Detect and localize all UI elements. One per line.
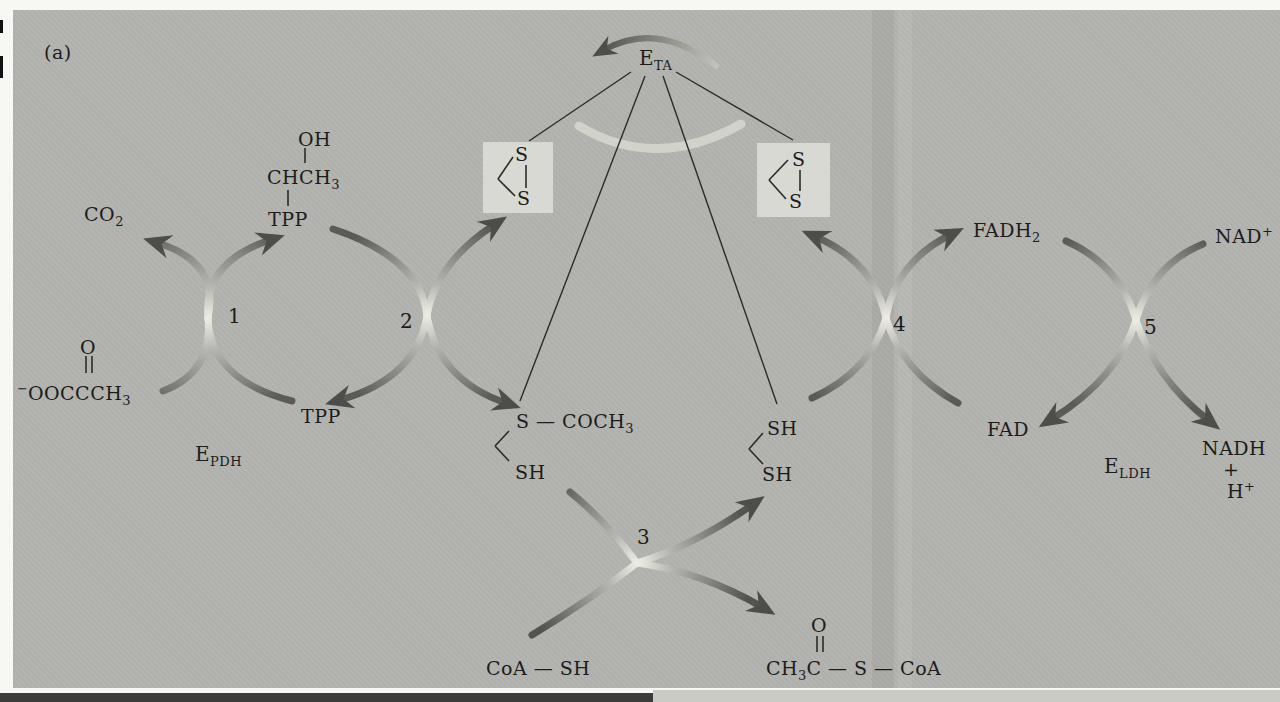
hydroxyethyl-oh-label: OH [298, 128, 331, 150]
epdh-base: E [195, 442, 210, 466]
ch-base: CHCH [267, 166, 331, 188]
acetylcoa-formula-label: CH3C — S — CoA [766, 657, 941, 687]
dihydro-arm [749, 449, 763, 464]
co2-base: CO [84, 203, 115, 225]
acetyl-s-group-label: S — COCH3 [516, 410, 634, 440]
dihydro-sh-top-label: SH [767, 417, 798, 439]
arrow-to-acetyl-coa [637, 563, 762, 607]
step-4-label: 4 [893, 313, 906, 335]
fadh2-base: FADH [973, 219, 1032, 241]
arrow-from-fadh2 [1066, 241, 1136, 320]
acetyl-arm [495, 431, 509, 446]
eta-sub: TA [654, 58, 672, 73]
cycle-5-arrows [1052, 241, 1208, 420]
cycle-1-arrows [158, 240, 292, 401]
eldh-sub: LDH [1119, 466, 1151, 481]
acetyl-s-sub: 3 [625, 421, 633, 436]
dihydro-arm [749, 433, 763, 449]
acetylcoa-rest: C — S — CoA [806, 657, 941, 679]
arrow-from-dihydrolipoamide [812, 318, 886, 398]
step-2-label: 2 [400, 310, 413, 332]
pyruvate-base: OOCCCH [28, 382, 122, 404]
left-box-s-top: S [515, 143, 529, 165]
arrow-from-acetyl-lipoamide [570, 492, 637, 563]
hplus-sup: + [1244, 479, 1255, 494]
acetyl-s-base: S — COCH [516, 410, 625, 432]
arrow-from-coa [532, 563, 637, 635]
step-5-label: 5 [1144, 316, 1157, 338]
step-1-label: 1 [228, 305, 241, 327]
arrow-to-left-lipoamide-box [427, 225, 494, 315]
fadh2-label: FADH2 [973, 219, 1040, 249]
pyruvate-o-label: O [80, 336, 96, 358]
coa-sh-label: CoA — SH [486, 657, 590, 679]
arrow-to-fadh2 [886, 235, 950, 318]
ch-sub: 3 [331, 177, 339, 192]
reaction-diagram-canvas [0, 0, 1280, 702]
epdh-sub: PDH [210, 454, 242, 469]
hplus-base: H [1227, 480, 1244, 502]
arrow-to-co2 [158, 243, 210, 318]
hydroxyethyl-tpp-label: TPP [268, 208, 308, 230]
enzyme-eldh-label: ELDH [1104, 455, 1151, 485]
eta-arm-line-dihydro [663, 76, 777, 404]
co2-sub: 2 [115, 214, 123, 229]
right-box-s-bottom: S [789, 190, 803, 212]
left-box-s-bottom: S [517, 187, 531, 209]
hydroxyethyl-ch-label: CHCH3 [267, 166, 340, 196]
dihydro-sh-bottom-label: SH [762, 463, 793, 485]
tpp-free-label: TPP [301, 405, 341, 427]
eta-base: E [639, 46, 654, 70]
cycle-4-arrows [812, 235, 958, 403]
arrow-from-nad [1136, 244, 1203, 320]
cycle-3-arrows [532, 492, 762, 635]
acetyl-arm [495, 446, 509, 461]
co2-label: CO2 [84, 203, 123, 233]
cycle-2-arrows [333, 225, 506, 403]
nadh-label: NADH [1202, 437, 1266, 459]
arrow-to-dihydrolipoamide [637, 505, 752, 563]
bottom-page-strip [653, 690, 1280, 702]
arrow-to-right-lipoamide-box [816, 237, 886, 318]
pyruvate-charge: − [17, 381, 28, 396]
arrow-from-tpp [208, 318, 292, 401]
acetylcoa-o-label: O [811, 614, 827, 636]
fadh2-sub: 2 [1032, 230, 1040, 245]
right-box-s-top: S [792, 148, 806, 170]
eldh-base: E [1104, 454, 1119, 478]
enzyme-eta-label: ETA [639, 47, 672, 77]
pyruvate-sub: 3 [122, 393, 130, 408]
nad-base: NAD [1215, 225, 1262, 247]
nad-sup: + [1262, 224, 1273, 239]
fad-label: FAD [987, 418, 1029, 440]
arrow-from-pyruvate [163, 318, 208, 391]
nad-label: NAD+ [1215, 221, 1273, 247]
next-panel-edge-bar [0, 693, 653, 702]
pyruvate-formula-label: −OOCCCH3 [17, 378, 131, 412]
arrow-to-fad [1052, 320, 1136, 419]
arrow-from-hydroxyethyl-tpp [333, 229, 427, 315]
acetylcoa-ch: CH [766, 657, 798, 679]
arrow-to-tpp [340, 315, 427, 400]
acetyl-sh-label: SH [515, 461, 546, 483]
hplus-label: H+ [1227, 476, 1255, 502]
lipoamide-swing-arc [579, 124, 741, 149]
step-3-label: 3 [637, 526, 650, 548]
arrow-to-acetyl-lipoamide [427, 315, 506, 403]
eta-arm-lines [520, 72, 793, 404]
bond-lines [86, 148, 823, 652]
enzyme-epdh-label: EPDH [195, 443, 242, 473]
panel-label: (a) [44, 41, 72, 63]
